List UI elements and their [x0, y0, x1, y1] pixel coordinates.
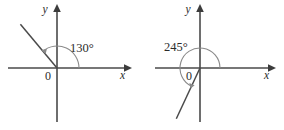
- x-axis-arrowhead-left: [124, 64, 132, 72]
- angle-diagrams-svg: y x 0 130° y x 0 245°: [0, 0, 284, 130]
- x-axis-arrowhead-right: [268, 64, 276, 72]
- origin-label-left: 0: [45, 69, 51, 83]
- angle-figures-container: y x 0 130° y x 0 245°: [0, 0, 284, 130]
- angle-245-diagram: y x 0 245°: [155, 3, 276, 122]
- angle-130-diagram: y x 0 130°: [8, 3, 132, 122]
- x-axis-label-left: x: [119, 69, 126, 81]
- origin-label-right: 0: [186, 69, 192, 83]
- y-axis-label-right: y: [185, 3, 192, 16]
- angle-label-right: 245°: [164, 40, 188, 54]
- y-axis-arrowhead-left: [53, 4, 61, 12]
- x-axis-label-right: x: [263, 69, 270, 81]
- y-axis-label-left: y: [42, 3, 49, 16]
- angle-label-left: 130°: [70, 41, 94, 55]
- y-axis-arrowhead-right: [196, 4, 204, 12]
